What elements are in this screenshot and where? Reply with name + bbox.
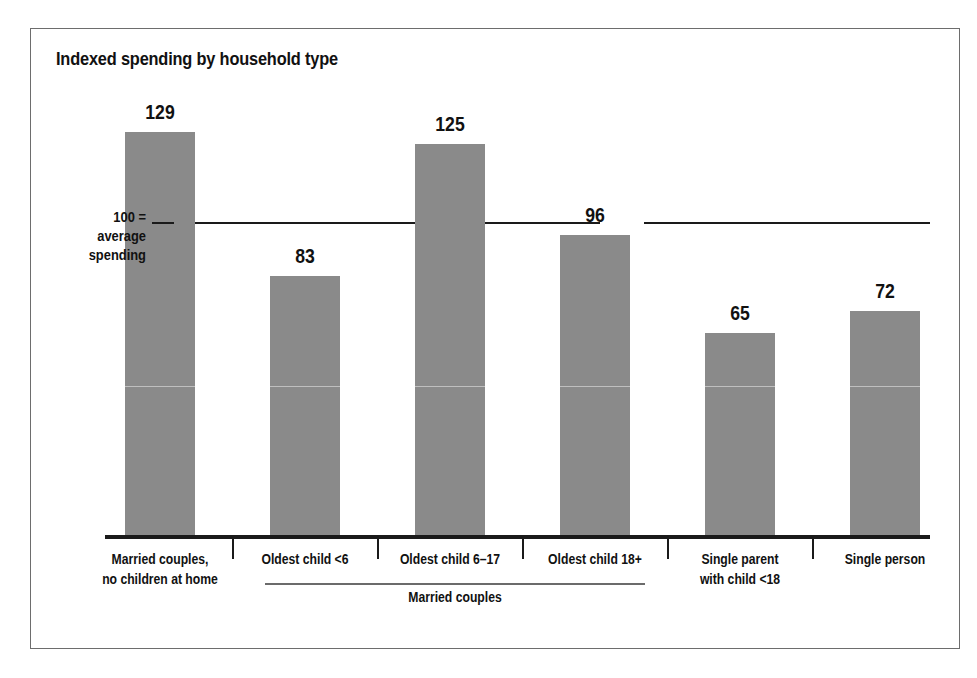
chart-frame — [30, 28, 960, 649]
chart-title: Indexed spending by household type — [56, 48, 338, 70]
